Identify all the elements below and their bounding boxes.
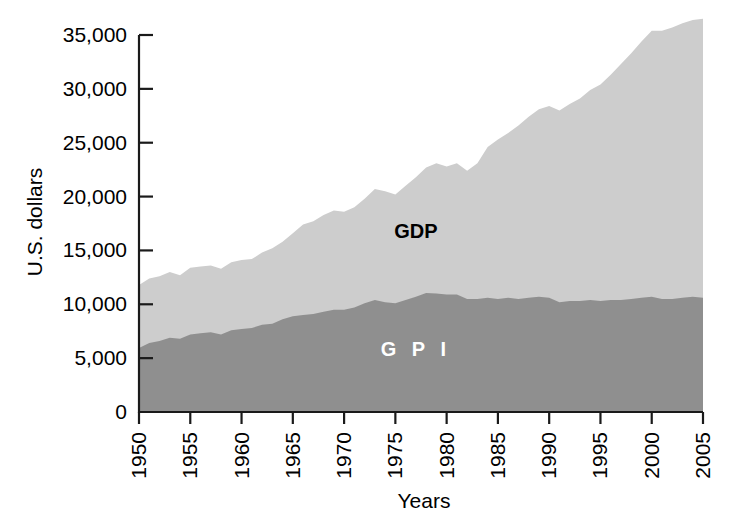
x-tick-label-1955: 1955 bbox=[178, 432, 201, 479]
y-tick-label-30000: 30,000 bbox=[63, 77, 127, 100]
area-chart: 05,00010,00015,00020,00025,00030,00035,0… bbox=[0, 0, 744, 521]
x-tick-label-1965: 1965 bbox=[281, 432, 304, 479]
x-tick-label-1980: 1980 bbox=[435, 432, 458, 479]
x-tick-label-2005: 2005 bbox=[691, 432, 714, 479]
x-axis-title: Years bbox=[398, 489, 451, 512]
series-label-gpi: G P I bbox=[381, 338, 451, 360]
y-tick-label-5000: 5,000 bbox=[74, 346, 127, 369]
y-tick-label-35000: 35,000 bbox=[63, 23, 127, 46]
x-tick-label-1990: 1990 bbox=[537, 432, 560, 479]
y-tick-label-0: 0 bbox=[115, 400, 127, 423]
chart-container: 05,00010,00015,00020,00025,00030,00035,0… bbox=[0, 0, 744, 521]
x-tick-label-1975: 1975 bbox=[383, 432, 406, 479]
y-tick-label-15000: 15,000 bbox=[63, 238, 127, 261]
x-tick-label-1960: 1960 bbox=[230, 432, 253, 479]
y-tick-label-25000: 25,000 bbox=[63, 131, 127, 154]
x-tick-label-1985: 1985 bbox=[486, 432, 509, 479]
y-tick-label-10000: 10,000 bbox=[63, 292, 127, 315]
x-tick-label-2000: 2000 bbox=[640, 432, 663, 479]
x-tick-label-1970: 1970 bbox=[332, 432, 355, 479]
x-tick-label-1995: 1995 bbox=[588, 432, 611, 479]
y-axis-title: U.S. dollars bbox=[23, 168, 46, 277]
x-tick-label-1950: 1950 bbox=[127, 432, 150, 479]
y-tick-label-20000: 20,000 bbox=[63, 185, 127, 208]
series-label-gdp: GDP bbox=[394, 220, 437, 242]
